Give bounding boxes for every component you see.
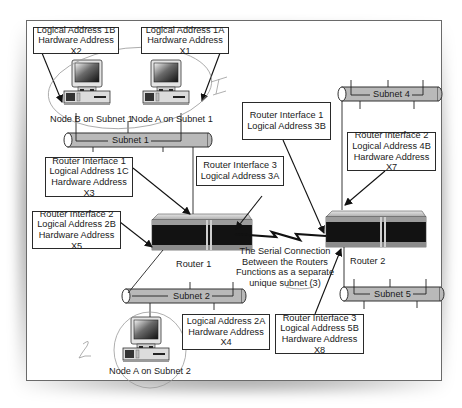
callout-line: Logical Address 1C [49, 166, 128, 177]
callout-router-2-interface-2: Router Interface 2 Logical Address 4B Ha… [347, 132, 436, 171]
callout-line: Logical Address 1A [146, 25, 225, 36]
callout-router-1-interface-1: Router Interface 1 Logical Address 1C Ha… [45, 157, 133, 197]
callout-line: Router Interface 1 [250, 110, 324, 121]
subnet-1-label: Subnet 1 [110, 135, 151, 145]
router-1-label: Router 1 [176, 259, 211, 270]
node-a-subnet-1-label: Node A on Subnet 1 [131, 114, 213, 125]
callout-node-a-subnet-1: Logical Address 1A Hardware Address X1 [141, 27, 229, 54]
callout-line: Logical Address 2A [187, 316, 266, 327]
serial-connection-note: The Serial Connection Between the Router… [235, 246, 335, 288]
serial-note-line: Between the Routers [235, 257, 335, 268]
callout-line: Router Interface 2 [355, 130, 429, 141]
callout-line: Logical Address 3B [247, 121, 326, 132]
callout-line: Logical Address 2B [37, 219, 116, 230]
callout-line: Router Interface 1 [52, 156, 126, 167]
callout-line: Logical Address 5B [280, 323, 359, 334]
callout-line: Hardware Address X7 [348, 152, 435, 173]
node-a-subnet-2-label: Node A on Subnet 2 [109, 366, 191, 377]
serial-note-line: Functions as a separate [235, 267, 335, 278]
node-b-subnet-1-label: Node B on Subnet 1 [50, 114, 133, 125]
callout-line: Logical Address 1B [37, 25, 116, 36]
router-1-device [152, 214, 252, 250]
callout-router-2-interface-3: Router Interface 3 Logical Address 5B Ha… [275, 314, 364, 354]
serial-note-line: unique subnet (3) [235, 278, 335, 289]
callout-line: Router Interface 3 [283, 313, 357, 324]
callout-router-2-interface-1: Router Interface 1 Logical Address 3B [242, 102, 331, 140]
router-2-device [326, 211, 426, 247]
callout-router-1-interface-3: Router Interface 3 Logical Address 3A [196, 156, 284, 186]
router-2-label: Router 2 [350, 256, 385, 267]
subnet-4-label: Subnet 4 [371, 89, 412, 99]
callout-line: Hardware Address X3 [46, 177, 132, 198]
node-a-subnet-2-computer [123, 317, 169, 362]
callout-line: Router Interface 3 [203, 160, 277, 171]
diagram-stage: Logical Address 1B Hardware Address X2 L… [0, 0, 462, 408]
callout-line: Router Interface 2 [40, 209, 114, 220]
serial-note-line: The Serial Connection [235, 246, 335, 257]
callout-node-a-subnet-2: Logical Address 2A Hardware Address X4 [182, 314, 270, 350]
callout-node-b-subnet-1: Logical Address 1B Hardware Address X2 [33, 27, 119, 54]
callout-line: Hardware Address X5 [33, 230, 120, 251]
node-a-subnet-1-computer [143, 60, 189, 105]
callout-line: Hardware Address X1 [142, 35, 228, 56]
node-b-subnet-1-computer [64, 60, 110, 105]
callout-line: Hardware Address X8 [276, 334, 363, 355]
callout-router-1-interface-2: Router Interface 2 Logical Address 2B Ha… [32, 211, 121, 249]
callout-line: Hardware Address X4 [183, 327, 269, 348]
callout-line: Hardware Address X2 [34, 35, 118, 56]
callout-line: Logical Address 4B [352, 141, 431, 152]
subnet-2-label: Subnet 2 [171, 291, 212, 301]
subnet-5-label: Subnet 5 [372, 289, 413, 299]
callout-line: Logical Address 3A [201, 171, 280, 182]
